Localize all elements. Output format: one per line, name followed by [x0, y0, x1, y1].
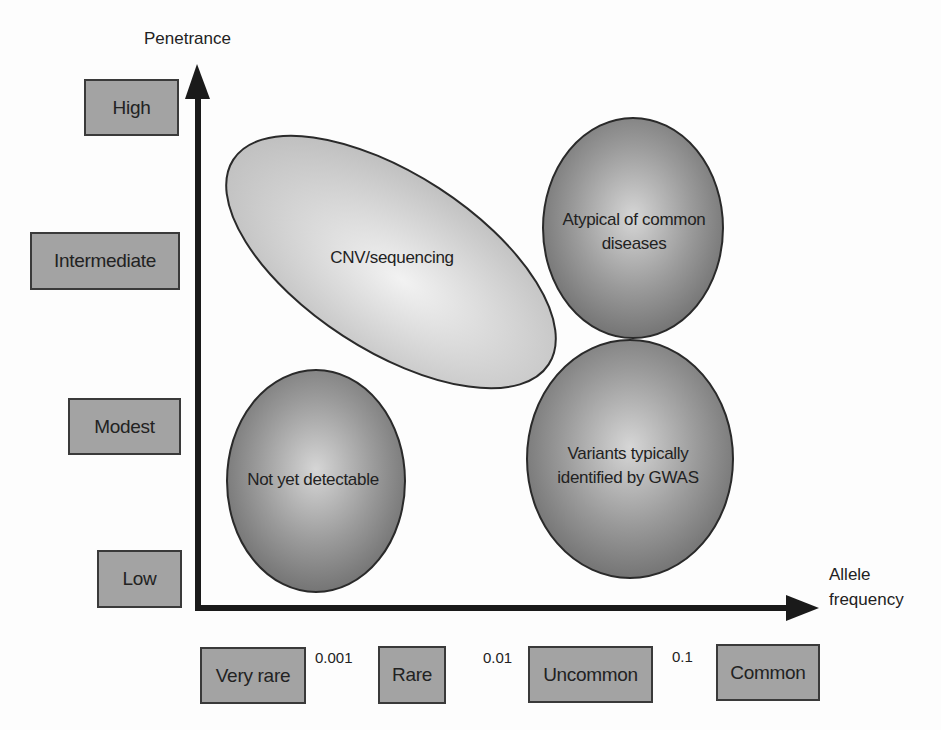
frequency-uncommon: Uncommon	[528, 646, 653, 703]
region-label-atypical-line2: diseases	[563, 232, 706, 256]
frequency-rare: Rare	[378, 646, 446, 704]
x-axis-arrow	[195, 595, 819, 621]
threshold-0-1: 0.1	[672, 648, 693, 665]
region-label-atypical: Atypical of common diseases	[563, 208, 706, 256]
penetrance-level-modest: Modest	[68, 398, 181, 455]
penetrance-level-intermediate: Intermediate	[30, 232, 180, 290]
y-axis-arrow	[185, 64, 210, 611]
penetrance-level-low: Low	[97, 550, 182, 608]
region-label-gwas-line1: Variants typically	[557, 442, 698, 466]
frequency-common: Common	[716, 644, 820, 701]
frequency-very-rare: Very rare	[200, 647, 306, 704]
x-axis-title: Allele frequency	[829, 562, 904, 612]
region-label-atypical-line1: Atypical of common	[563, 208, 706, 232]
region-label-not-yet-detectable: Not yet detectable	[247, 468, 379, 492]
region-label-gwas-line2: identified by GWAS	[557, 466, 698, 490]
threshold-0-001: 0.001	[315, 649, 353, 666]
x-axis-title-line1: Allele	[829, 562, 904, 587]
region-label-cnv: CNV/sequencing	[330, 246, 453, 270]
x-axis-title-line2: frequency	[829, 587, 904, 612]
threshold-0-01: 0.01	[483, 649, 512, 666]
penetrance-level-high: High	[84, 79, 179, 136]
y-axis-title: Penetrance	[144, 26, 231, 51]
region-label-gwas: Variants typically identified by GWAS	[557, 442, 698, 490]
